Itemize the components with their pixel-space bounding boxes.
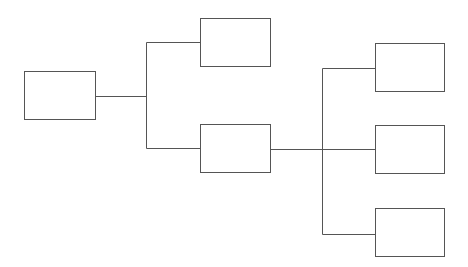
node-grandchild-1[interactable] xyxy=(376,44,445,92)
connector-child2-grandchildren xyxy=(271,69,376,235)
node-grandchild-3[interactable] xyxy=(376,209,445,257)
tree-diagram xyxy=(0,0,468,267)
node-grandchild-2[interactable] xyxy=(376,126,445,174)
connector-root-children xyxy=(96,43,201,149)
node-child-2[interactable] xyxy=(201,125,271,173)
node-root[interactable] xyxy=(25,72,96,120)
node-child-1[interactable] xyxy=(201,19,271,67)
